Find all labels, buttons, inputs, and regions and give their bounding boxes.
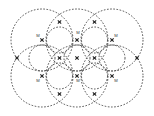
node-center-dot [94,57,96,59]
packing-diagram-svg: MMMMMM [0,0,154,116]
node-center-dot [111,39,113,41]
node-center-dot [94,93,96,95]
node-center-dot [16,57,18,59]
node-center-dot [59,57,61,59]
node-center-dot [41,39,43,41]
node-center-dot [59,93,61,95]
node-center-dot [41,75,43,77]
node-center-dot [94,21,96,23]
node-center-dot [136,57,138,59]
node-center-dot [76,75,78,77]
node-center-dot [76,57,78,59]
node-center-dot [59,21,61,23]
node-center-dot [111,75,113,77]
figure-container: MMMMMM Close-packed overlapping sphere l… [0,0,154,116]
node-center-dot [76,39,78,41]
